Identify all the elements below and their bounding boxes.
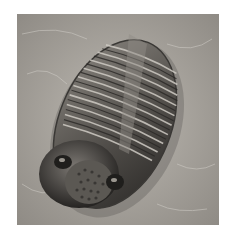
trilobite-illustration (17, 14, 219, 225)
trilobite-photo (17, 14, 219, 225)
